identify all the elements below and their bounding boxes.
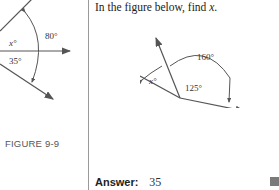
angle-arc [25, 12, 39, 82]
left-angle-figure: x° 80° 35° [0, 0, 88, 140]
answer-label: Answer: [95, 176, 138, 188]
figure-caption: FIGURE 9-9 [5, 138, 59, 149]
right-x-label: x° [148, 76, 157, 86]
column-divider [88, 0, 89, 190]
left-x-label: x° [8, 38, 17, 48]
left-ray [140, 76, 180, 98]
left-80-label: 80° [45, 31, 58, 41]
right-ray [180, 98, 244, 108]
right-125-label: 125° [185, 83, 203, 93]
right-160-label: 160° [197, 52, 215, 62]
answer-line: Answer: 35 [95, 175, 161, 190]
lower-ray [0, 64, 53, 99]
question-prompt: In the figure below, find x. [95, 1, 217, 13]
answer-value: 35 [149, 175, 161, 189]
end-of-solution-mark [270, 177, 279, 186]
left-35-label: 35° [9, 56, 22, 66]
problem-angle-figure: x° 160° 125° [140, 18, 279, 108]
